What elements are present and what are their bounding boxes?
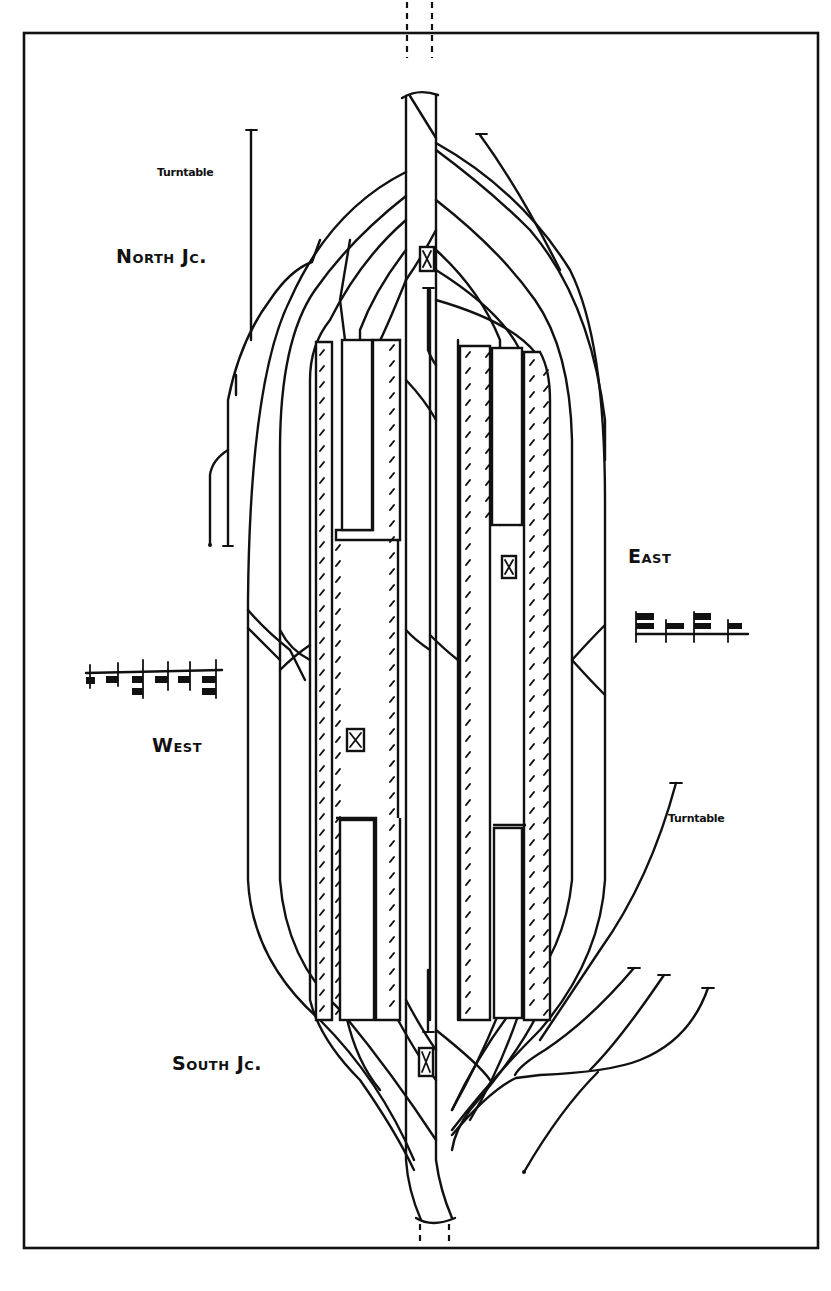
signal-box-east <box>502 556 516 578</box>
main-line-continuation-north <box>407 2 432 58</box>
signal-box-west <box>347 729 364 751</box>
signal-box-north <box>420 247 434 271</box>
west-sidings-symbol <box>86 660 222 698</box>
signal-box-south <box>419 1048 433 1076</box>
north-bridge-arc <box>402 92 438 98</box>
south-junction-label: South Jc. <box>172 1052 262 1074</box>
platform-west-outer <box>316 342 332 1020</box>
east-bay-south-pit <box>494 828 522 1018</box>
west-bay-south-pit <box>340 820 374 1020</box>
north-junction-label: North Jc. <box>116 245 207 267</box>
east-bay-north-pit <box>492 348 522 525</box>
east-sidings-symbol <box>636 612 748 642</box>
south-east-sidings <box>452 783 714 1174</box>
track-plan-diagram <box>0 0 831 1291</box>
east-label: East <box>628 545 671 567</box>
main-line-continuation-south <box>420 1224 449 1246</box>
west-label: West <box>152 734 202 756</box>
west-bay-north-pit <box>342 340 372 530</box>
turntable-label-south: Turntable <box>668 812 724 825</box>
turntable-label-north: Turntable <box>157 166 213 179</box>
west-turntable-line <box>208 130 320 547</box>
platform-east-north <box>460 346 490 1020</box>
